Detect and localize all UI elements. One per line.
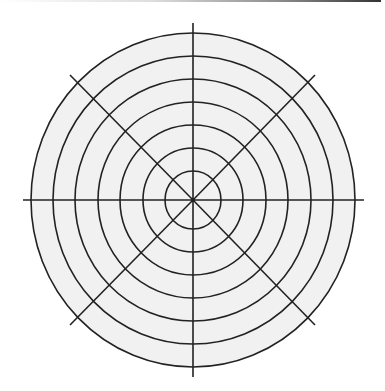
- polar-grid-diagram: [0, 0, 385, 391]
- polar-grid-center-point: [191, 198, 195, 202]
